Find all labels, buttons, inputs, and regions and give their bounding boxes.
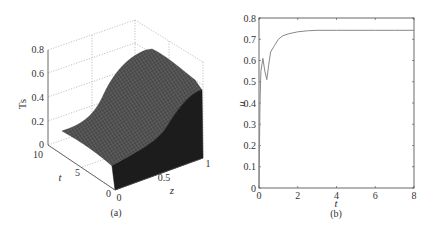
ztick-label: 0.6 xyxy=(32,68,45,79)
xtick-label: 0.5 xyxy=(158,172,171,183)
x-ticks: 02468 xyxy=(257,18,417,201)
xtick-label: 6 xyxy=(373,190,378,201)
ytick-label: 0 xyxy=(106,188,111,199)
panel-a-surface-plot: 0.8 0.6 0.4 0.2 0 Ts 10 5 0 t 0 0.5 1 z … xyxy=(0,0,215,235)
ztick-label: 0.2 xyxy=(32,116,45,127)
xtick-label: 2 xyxy=(295,190,300,201)
ytick-label: 0.8 xyxy=(244,13,257,24)
ztick-label: 0.4 xyxy=(32,92,45,103)
caption-a: (a) xyxy=(110,207,121,219)
xtick-label: 0 xyxy=(117,192,122,203)
ytick-label: 0 xyxy=(251,183,256,194)
ytick-label: 0.5 xyxy=(244,76,257,87)
ytick-label: 5 xyxy=(75,167,80,178)
ytick-label: 10 xyxy=(33,149,43,160)
series-u-line xyxy=(259,30,414,188)
zlabel-Ts: Ts xyxy=(16,99,28,109)
ylabel-t: t xyxy=(58,171,62,183)
ytick-label: 0.1 xyxy=(244,161,257,172)
line-plot-svg: 00.10.20.30.40.50.60.70.8 02468 u t (b) xyxy=(215,0,431,235)
plot-frame xyxy=(259,18,414,188)
surface-plot-svg: 0.8 0.6 0.4 0.2 0 Ts 10 5 0 t 0 0.5 1 z … xyxy=(0,0,215,235)
xtick-label: 1 xyxy=(206,158,211,169)
xlabel-z: z xyxy=(169,184,175,196)
ylabel-u: u xyxy=(235,101,247,107)
caption-b: (b) xyxy=(330,208,342,220)
ytick-label: 0.3 xyxy=(244,119,257,130)
ztick-label: 0.8 xyxy=(32,44,45,55)
ytick-label: 0.2 xyxy=(244,140,257,151)
ytick-label: 0.7 xyxy=(244,34,257,45)
xtick-label: 0 xyxy=(257,190,262,201)
panel-b-line-plot: 00.10.20.30.40.50.60.70.8 02468 u t (b) xyxy=(215,0,431,235)
xtick-label: 8 xyxy=(412,190,417,201)
ytick-label: 0.6 xyxy=(244,55,257,66)
y-ticks: 00.10.20.30.40.50.60.70.8 xyxy=(244,13,415,194)
